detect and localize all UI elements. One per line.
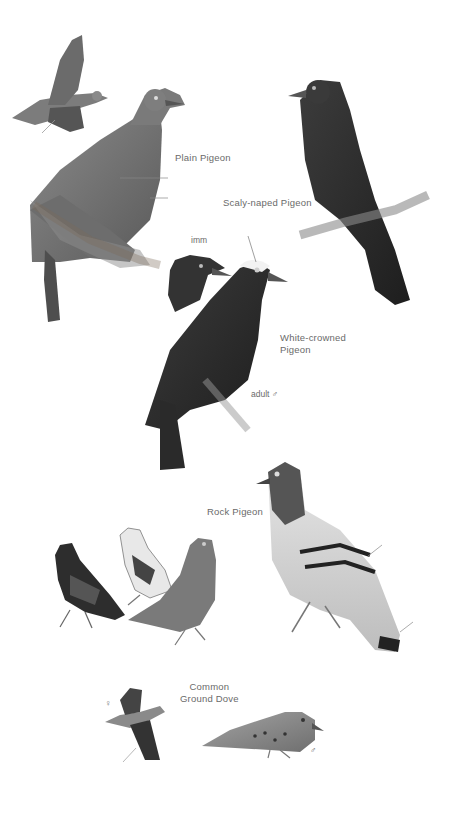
- white-crowned-pigeon-label: White-crowned Pigeon: [280, 332, 346, 356]
- plain-pigeon-flight-figure: [12, 35, 108, 133]
- field-guide-plate: Plain Pigeon Scaly-naped Pigeon imm Whit…: [0, 0, 454, 815]
- common-ground-dove-male-figure: [202, 712, 324, 758]
- male-symbol: ♂: [310, 745, 316, 755]
- scaly-naped-pigeon-figure: [288, 80, 428, 305]
- rock-pigeon-pied-figure: [120, 528, 172, 605]
- imm-annotation: imm: [191, 235, 207, 245]
- rock-pigeon-wild-type-figure: [256, 462, 413, 652]
- common-ground-dove-female-figure: [105, 688, 165, 762]
- adult-male-annotation: adult ♂: [251, 389, 278, 399]
- plain-pigeon-label: Plain Pigeon: [175, 152, 231, 164]
- rock-pigeon-dark-checker-figure: [55, 543, 125, 628]
- scaly-naped-pigeon-label: Scaly-naped Pigeon: [223, 197, 312, 209]
- female-symbol: ♀: [105, 698, 111, 708]
- common-ground-dove-label: Common Ground Dove: [180, 681, 239, 705]
- rock-pigeon-label: Rock Pigeon: [207, 506, 263, 518]
